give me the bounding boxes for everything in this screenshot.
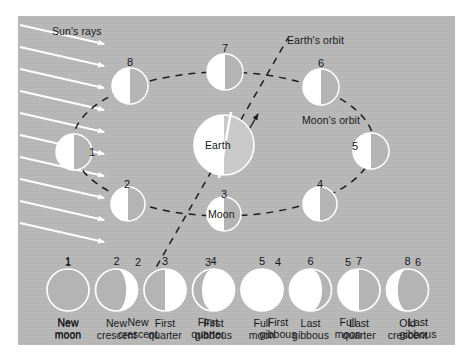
moon-number-4: 4	[317, 178, 323, 191]
moon-number-8: 8	[127, 56, 133, 69]
earth-label: Earth	[205, 139, 231, 151]
moon-number-1: 1	[89, 146, 95, 159]
moon-label: Moon	[208, 208, 235, 220]
diagram-artwork-overflow	[0, 0, 476, 359]
phase-circle-3	[144, 269, 186, 311]
phase-number-8: 8	[380, 255, 436, 267]
phase-circle-4	[193, 269, 235, 311]
moon-orbit-label: Moon's orbit	[302, 114, 360, 126]
phase-circle-7	[338, 269, 380, 311]
moon-number-6: 6	[318, 57, 324, 70]
phase-circle-1	[47, 269, 89, 311]
sun-rays-label: Sun's rays	[52, 25, 102, 37]
phase-circle-5	[241, 269, 283, 311]
moon-number-3: 3	[221, 188, 227, 201]
figure-root: Sun's rays Earth Moon Earth's orbit Moon…	[0, 0, 476, 359]
phase-circle-8	[387, 269, 429, 311]
moon-number-2: 2	[124, 178, 130, 191]
earth-orbit-label: Earth's orbit	[287, 34, 344, 46]
moon-number-5: 5	[352, 140, 358, 153]
phase-circle-6	[290, 269, 332, 311]
phase-label-8-line1: Old	[380, 317, 436, 330]
phase-label-8-line2: crescent	[380, 329, 436, 342]
moon-number-7: 7	[222, 42, 228, 55]
phase-circle-2	[96, 269, 138, 311]
